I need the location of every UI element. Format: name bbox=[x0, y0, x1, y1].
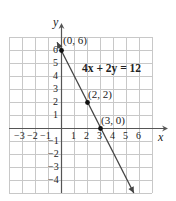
y-tick-neg4: −4 bbox=[48, 175, 59, 185]
x-tick-neg2: −2 bbox=[27, 131, 38, 141]
y-tick-neg1: −1 bbox=[48, 136, 59, 146]
coordinate-plane bbox=[0, 0, 176, 201]
y-axis-label: y bbox=[53, 16, 58, 28]
point-label-2-2: (2, 2) bbox=[88, 89, 112, 100]
y-tick-neg2: −2 bbox=[48, 149, 59, 159]
x-tick-2: 2 bbox=[84, 131, 89, 141]
x-axis-label: x bbox=[158, 131, 163, 143]
grid-lines bbox=[9, 37, 153, 194]
y-tick-2: 2 bbox=[53, 97, 58, 107]
y-tick-neg3: −3 bbox=[48, 162, 59, 172]
y-tick-1: 1 bbox=[53, 110, 58, 120]
y-tick-3: 3 bbox=[53, 84, 58, 94]
y-tick-5: 5 bbox=[53, 58, 58, 68]
x-tick-6: 6 bbox=[136, 131, 141, 141]
y-tick-4: 4 bbox=[53, 71, 58, 81]
y-tick-6: 6 bbox=[53, 45, 58, 55]
point-label-3-0: (3, 0) bbox=[101, 115, 125, 126]
point-label-0-6: (0, 6) bbox=[63, 35, 87, 46]
equation-label: 4x + 2y = 12 bbox=[82, 63, 141, 75]
x-tick-1: 1 bbox=[71, 131, 76, 141]
x-tick-4: 4 bbox=[110, 131, 115, 141]
x-tick-3: 3 bbox=[97, 131, 102, 141]
x-tick-neg3: −3 bbox=[14, 131, 25, 141]
x-tick-5: 5 bbox=[123, 131, 128, 141]
